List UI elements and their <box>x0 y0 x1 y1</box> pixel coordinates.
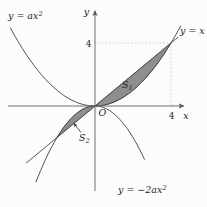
curve-parabola-down <box>36 106 144 182</box>
label-s2: S2 <box>79 132 90 145</box>
function-plot-svg: y = ax2 y = x y = −2ax2 S1 S2 O y x 4 4 <box>0 0 207 207</box>
label-parabola-up: y = ax2 <box>7 10 43 22</box>
label-parabola-down: y = −2ax2 <box>117 184 167 196</box>
y-tick-4: 4 <box>86 39 92 49</box>
curve-line-y-equals-x <box>27 37 178 162</box>
x-axis-label: x <box>183 110 189 121</box>
origin-label: O <box>99 107 107 118</box>
y-axis-label: y <box>83 6 90 17</box>
label-line: y = x <box>179 25 205 36</box>
x-tick-4: 4 <box>169 111 175 121</box>
math-figure: y = ax2 y = x y = −2ax2 S1 S2 O y x 4 4 <box>0 0 207 207</box>
